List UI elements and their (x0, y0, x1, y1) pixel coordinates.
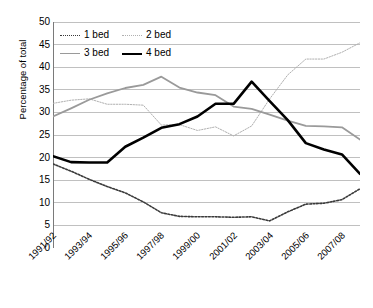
legend-label: 2 bed (146, 30, 171, 40)
legend-swatch-icon (122, 48, 142, 58)
x-tick-label: 1991/92 (26, 230, 58, 262)
legend-label: 1 bed (84, 30, 109, 40)
x-tick-label: 1995/96 (98, 230, 130, 262)
legend-swatch-icon (122, 30, 142, 40)
chart-legend: 1 bed2 bed3 bed4 bed (60, 26, 190, 62)
legend-label: 3 bed (84, 48, 109, 58)
legend-swatch-icon (60, 30, 80, 40)
x-tick-label: 2007/08 (315, 230, 347, 262)
x-tick-label: 2003/04 (243, 230, 275, 262)
x-tick-label: 1993/94 (62, 230, 94, 262)
x-tick-label: 2005/06 (279, 230, 311, 262)
x-tick-label: 2001/02 (207, 230, 239, 262)
legend-item-3-bed[interactable]: 3 bed (60, 44, 122, 62)
legend-label: 4 bed (146, 48, 171, 58)
x-tick-label: 1999/00 (170, 230, 202, 262)
legend-item-2-bed[interactable]: 2 bed (122, 26, 184, 44)
x-tick-label: 1997/98 (134, 230, 166, 262)
legend-swatch-icon (60, 48, 80, 58)
legend-item-1-bed[interactable]: 1 bed (60, 26, 122, 44)
line-chart: Percentage of total 50454035302520151050… (0, 0, 373, 308)
legend-item-4-bed[interactable]: 4 bed (122, 44, 184, 62)
